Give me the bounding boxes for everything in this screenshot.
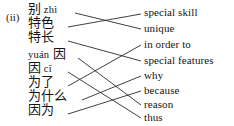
right-term-r3[interactable]: in order to — [144, 37, 191, 51]
right-term-r7[interactable]: reason — [144, 97, 173, 111]
hanzi-text: 因为 — [28, 102, 54, 117]
hanzi-text: 特色 — [28, 15, 54, 30]
matching-exercise: (ii) 别 zhì特色特长yuán 因因 cī为了为什么因为 special … — [0, 0, 234, 126]
right-term-r2[interactable]: unique — [144, 21, 175, 35]
right-term-r1[interactable]: special skill — [144, 5, 198, 19]
hanzi-text: 别 — [28, 1, 41, 16]
right-term-r6[interactable]: because — [144, 83, 180, 97]
connection-line-l3-r4 — [68, 41, 141, 61]
hanzi-text: 为了 — [28, 74, 54, 89]
connection-line-l2-r1 — [68, 14, 141, 27]
hanzi-text: 为什么 — [28, 88, 67, 103]
connection-line-l7-r5 — [82, 76, 141, 100]
connection-line-l4-r7 — [78, 58, 141, 105]
pinyin-text: yuán — [28, 49, 49, 60]
pinyin-text: zhì — [41, 4, 57, 15]
right-term-r4[interactable]: special features — [144, 53, 214, 67]
left-term-l3[interactable]: 特长 — [28, 30, 54, 44]
left-term-l7[interactable]: 为什么 — [28, 89, 67, 103]
right-term-r5[interactable]: why — [144, 68, 163, 82]
hanzi-text: 因 — [28, 60, 41, 75]
pinyin-text: cī — [41, 63, 52, 74]
exercise-number: (ii) — [6, 11, 19, 23]
connection-line-l6-r3 — [68, 45, 141, 86]
left-term-l2[interactable]: 特色 — [28, 16, 54, 30]
left-term-l1[interactable]: 别 zhì — [28, 2, 57, 16]
left-term-l4[interactable]: yuán 因 — [28, 47, 66, 61]
hanzi-text: 特长 — [28, 29, 54, 44]
left-term-l6[interactable]: 为了 — [28, 75, 54, 89]
left-term-l8[interactable]: 因为 — [28, 103, 54, 117]
connection-line-l8-r6 — [68, 91, 141, 114]
hanzi-text: 因 — [49, 46, 66, 61]
connection-line-l1-r2 — [75, 13, 141, 29]
connection-line-l5-r8 — [68, 72, 141, 118]
left-term-l5[interactable]: 因 cī — [28, 61, 52, 75]
right-term-r8[interactable]: thus — [144, 110, 163, 124]
